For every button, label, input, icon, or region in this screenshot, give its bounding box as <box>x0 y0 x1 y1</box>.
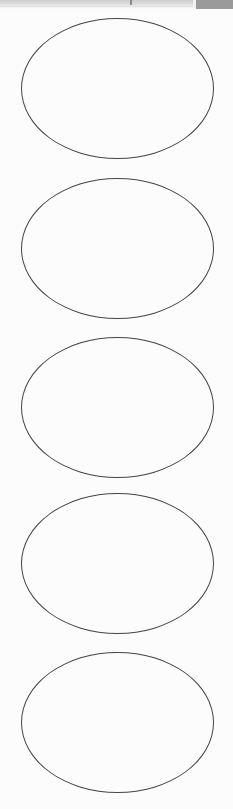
label-oval-1[interactable] <box>21 18 214 159</box>
label-oval-4[interactable] <box>21 493 214 634</box>
toolbar-right-panel[interactable] <box>196 0 233 9</box>
toolbar-seam-divider <box>0 6 196 7</box>
toolbar-strip-cropped[interactable] <box>0 0 233 10</box>
label-sheet-page <box>0 10 233 809</box>
document-viewer-canvas <box>0 0 233 809</box>
label-oval-5[interactable] <box>21 652 214 793</box>
toolbar-marker-icon <box>130 0 132 5</box>
label-oval-2[interactable] <box>21 178 214 319</box>
label-oval-3[interactable] <box>21 337 214 478</box>
